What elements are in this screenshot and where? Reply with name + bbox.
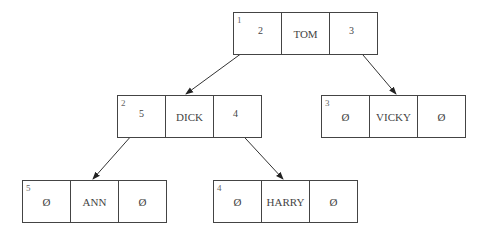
node-index: 5: [26, 183, 31, 193]
right-pointer-cell: 3: [330, 13, 377, 54]
node-index: 1: [237, 15, 242, 25]
value-cell: ANN: [71, 181, 119, 222]
node-index: 4: [217, 183, 222, 193]
right-pointer-value: 4: [233, 108, 238, 119]
tree-node-vicky: 3 Ø VICKY Ø: [321, 95, 466, 138]
right-pointer-cell: Ø: [119, 181, 166, 222]
null-pointer-value: Ø: [43, 196, 51, 208]
right-pointer-value: 3: [349, 25, 354, 36]
null-pointer-value: Ø: [234, 196, 242, 208]
null-pointer-value: Ø: [342, 111, 350, 123]
right-pointer-cell: 4: [214, 96, 261, 137]
value-cell: HARRY: [262, 181, 310, 222]
left-pointer-cell: 1 2: [234, 13, 282, 54]
left-pointer-cell: 3 Ø: [322, 96, 370, 137]
value-cell: VICKY: [370, 96, 418, 137]
tree-node-tom: 1 2 TOM 3: [233, 12, 378, 55]
left-pointer-cell: 5 Ø: [23, 181, 71, 222]
left-pointer-value: 2: [258, 25, 263, 36]
tree-node-ann: 5 Ø ANN Ø: [22, 180, 167, 223]
left-pointer-cell: 4 Ø: [214, 181, 262, 222]
tree-node-dick: 2 5 DICK 4: [117, 95, 262, 138]
tree-node-harry: 4 Ø HARRY Ø: [213, 180, 358, 223]
node-index: 2: [121, 98, 126, 108]
value-cell: DICK: [166, 96, 214, 137]
value-cell: TOM: [282, 13, 330, 54]
left-pointer-cell: 2 5: [118, 96, 166, 137]
right-pointer-cell: Ø: [310, 181, 357, 222]
right-pointer-cell: Ø: [418, 96, 465, 137]
left-pointer-value: 5: [139, 108, 144, 119]
node-index: 3: [325, 98, 330, 108]
